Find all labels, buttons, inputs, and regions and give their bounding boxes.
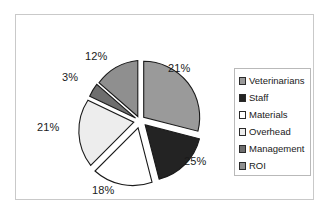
legend-swatch-icon	[239, 162, 246, 170]
legend-item-label: Overhead	[249, 127, 291, 137]
pie-chart-area: 21% 25% 18% 21% 3% 12% Veterinarians Sta…	[0, 0, 330, 215]
legend-item-label: Veterinarians	[249, 76, 304, 86]
legend-swatch-icon	[239, 77, 246, 85]
pie-label-veterinarians: 21%	[168, 62, 190, 74]
chart-legend: Veterinarians Staff Materials Overhead M…	[234, 68, 311, 176]
legend-swatch-icon	[239, 111, 246, 119]
pie-label-staff: 25%	[184, 155, 206, 167]
legend-item-management[interactable]: Management	[239, 141, 307, 157]
pie-label-materials: 18%	[92, 184, 114, 196]
legend-item-label: Staff	[249, 93, 268, 103]
legend-swatch-icon	[239, 145, 246, 153]
pie-label-overhead: 21%	[37, 121, 59, 133]
legend-swatch-icon	[239, 128, 246, 136]
chart-screenshot: 21% 25% 18% 21% 3% 12% Veterinarians Sta…	[0, 0, 330, 215]
pie-label-management: 3%	[62, 71, 78, 83]
legend-item-label: Management	[249, 144, 304, 154]
pie-chart-svg	[62, 55, 222, 200]
legend-swatch-icon	[239, 94, 246, 102]
legend-item-overhead[interactable]: Overhead	[239, 124, 307, 140]
legend-item-veterinarians[interactable]: Veterinarians	[239, 73, 307, 89]
pie-slice-staff[interactable]	[145, 125, 199, 179]
pie-label-roi: 12%	[85, 50, 107, 62]
legend-item-staff[interactable]: Staff	[239, 90, 307, 106]
legend-item-label: Materials	[249, 110, 288, 120]
legend-item-roi[interactable]: ROI	[239, 158, 307, 174]
legend-item-label: ROI	[249, 161, 266, 171]
legend-item-materials[interactable]: Materials	[239, 107, 307, 123]
